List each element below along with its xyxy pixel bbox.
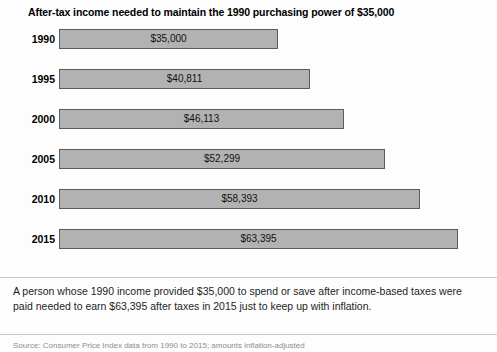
chart-footnote: A person whose 1990 income provided $35,… (13, 284, 479, 313)
bar-row: 1990 $35,000 (0, 28, 497, 50)
bar-value-label: $40,811 (59, 69, 310, 89)
bar-value-label: $35,000 (59, 29, 278, 49)
divider-below-footnote (0, 334, 497, 335)
bar-row: 2005 $52,299 (0, 148, 497, 170)
bar-track: $35,000 (59, 29, 278, 49)
bar-category-label: 2015 (0, 228, 55, 250)
bar-category-label: 2005 (0, 148, 55, 170)
bar-row: 1995 $40,811 (0, 68, 497, 90)
bar-category-label: 2000 (0, 108, 55, 130)
bar-value-label: $58,393 (59, 189, 420, 209)
bar-category-label: 2010 (0, 188, 55, 210)
bar-row: 2000 $46,113 (0, 108, 497, 130)
bar-track: $46,113 (59, 109, 344, 129)
bar-track: $58,393 (59, 189, 420, 209)
bar-category-label: 1990 (0, 28, 55, 50)
bar-value-label: $63,395 (59, 229, 458, 249)
bar-value-label: $46,113 (59, 109, 344, 129)
bar-track: $40,811 (59, 69, 310, 89)
bar-track: $63,395 (59, 229, 458, 249)
bar-value-label: $52,299 (59, 149, 385, 169)
chart-title: After-tax income needed to maintain the … (28, 6, 394, 18)
bar-track: $52,299 (59, 149, 385, 169)
divider-above-footnote (0, 277, 497, 278)
bar-row: 2010 $58,393 (0, 188, 497, 210)
chart-source-note: Source: Consumer Price Index data from 1… (13, 341, 483, 351)
chart-figure: After-tax income needed to maintain the … (0, 0, 497, 352)
bar-row: 2015 $63,395 (0, 228, 497, 250)
bar-chart-plot-area: 1990 $35,000 1995 $40,811 2000 $46,113 2… (0, 28, 497, 276)
bar-category-label: 1995 (0, 68, 55, 90)
